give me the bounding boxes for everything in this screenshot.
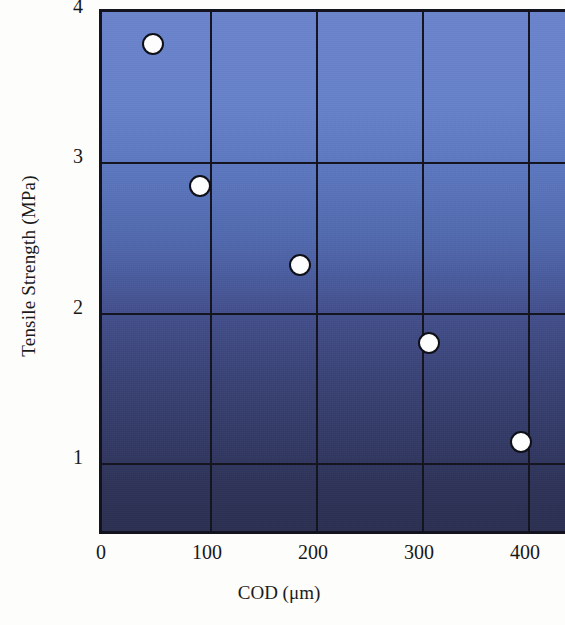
y-axis-title: Tensile Strength (MPa): [18, 126, 40, 406]
x-tick-label: 0: [56, 541, 146, 564]
x-tick-label: 200: [268, 541, 358, 564]
horizontal-gridline: [102, 463, 565, 465]
vertical-gridline: [528, 12, 530, 531]
data-point-marker: [189, 175, 211, 197]
horizontal-gridline: [102, 313, 565, 315]
y-tick-label: 3: [39, 145, 83, 168]
x-tick-label: 100: [162, 541, 252, 564]
data-point-marker: [142, 33, 164, 55]
x-tick-label: 300: [374, 541, 464, 564]
data-point-marker: [510, 431, 532, 453]
y-tick-label: 1: [39, 446, 83, 469]
plot-area: [99, 9, 565, 534]
data-point-marker: [418, 332, 440, 354]
vertical-gridline: [210, 12, 212, 531]
paper-grain-overlay: [102, 12, 565, 531]
data-point-marker: [289, 254, 311, 276]
vertical-gridline: [422, 12, 424, 531]
horizontal-gridline: [102, 162, 565, 164]
x-axis-title: COD (μm): [99, 582, 459, 604]
x-tick-label: 400: [480, 541, 565, 564]
vertical-gridline: [316, 12, 318, 531]
y-tick-label: 2: [39, 296, 83, 319]
y-tick-label: 4: [39, 0, 83, 18]
chart-figure: Tensile Strength (MPa) 0100200300400 123…: [0, 0, 565, 625]
